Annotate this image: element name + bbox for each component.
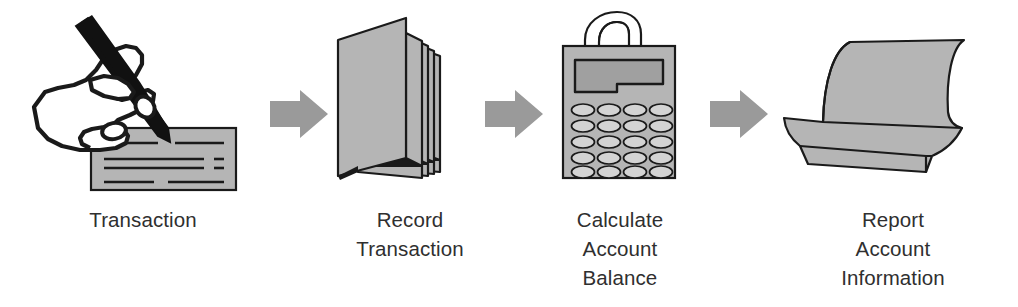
label-line-2: Account [583, 237, 658, 260]
label-line-3: Information [841, 266, 945, 289]
ledger-pages-stack-icon [330, 0, 490, 200]
step-transaction: Transaction [18, 0, 268, 307]
hand-writing-check-icon [18, 0, 268, 200]
step-label-calculate-account-balance: Calculate Account Balance [545, 205, 695, 292]
step-calculate-account-balance: Calculate Account Balance [545, 0, 695, 307]
label-line-2: Account [856, 237, 931, 260]
step-report-account-information: Report Account Information [778, 0, 1008, 307]
step-label-report-account-information: Report Account Information [778, 205, 1008, 292]
label-line-1: Record [377, 208, 444, 231]
label-line-3: Balance [583, 266, 658, 289]
label-line-2: Transaction [356, 237, 463, 260]
folded-report-paper-icon [778, 0, 1008, 200]
label-line-1: Report [862, 208, 924, 231]
label-line-1: Transaction [89, 208, 196, 231]
process-flow-diagram: Transaction [0, 0, 1018, 307]
arrow-right-icon-2 [483, 88, 545, 140]
step-label-record-transaction: Record Transaction [330, 205, 490, 263]
step-record-transaction: Record Transaction [330, 0, 490, 307]
arrow-right-icon-1 [268, 88, 330, 140]
arrow-right-icon-3 [708, 88, 770, 140]
label-line-1: Calculate [577, 208, 663, 231]
step-label-transaction: Transaction [18, 205, 268, 234]
calculator-with-tape-icon [545, 0, 695, 200]
